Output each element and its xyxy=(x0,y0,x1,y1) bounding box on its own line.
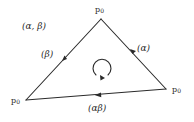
rotation-arrowhead-icon xyxy=(100,75,105,81)
vertex-label-bottom-left: p0 xyxy=(11,97,20,105)
region-label: (α, β) xyxy=(22,22,46,31)
vertex-label-top: p0 xyxy=(95,6,104,14)
bottom-edge xyxy=(26,89,166,100)
left-edge-label: (β) xyxy=(41,50,53,59)
bottom-edge-arrow-icon xyxy=(95,93,101,98)
vertex-label-bottom-right: p0 xyxy=(172,86,181,94)
bottom-edge-label: (αβ) xyxy=(88,104,106,113)
rotation-arrow-icon xyxy=(93,59,111,75)
right-edge-label: (α) xyxy=(137,44,150,53)
right-edge xyxy=(101,19,166,89)
